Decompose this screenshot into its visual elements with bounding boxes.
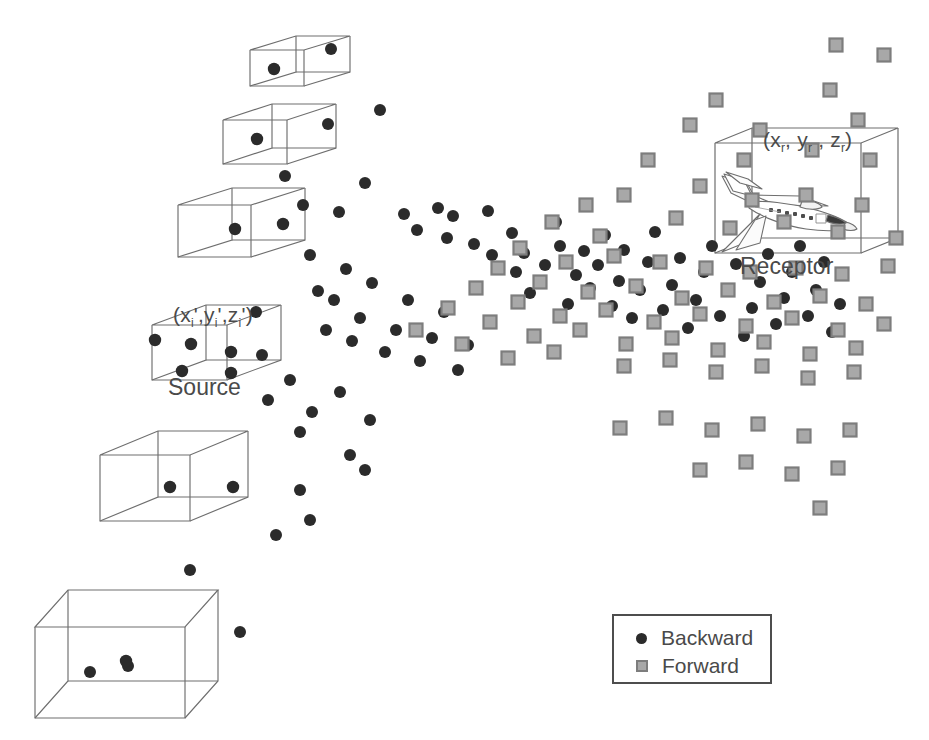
forward-particle xyxy=(580,199,593,212)
forward-particle xyxy=(824,84,837,97)
forward-particle xyxy=(860,298,873,311)
forward-particle xyxy=(832,226,845,239)
forward-particle xyxy=(758,336,771,349)
backward-particle xyxy=(294,426,306,438)
backward-particle xyxy=(325,43,337,55)
forward-particle xyxy=(850,342,863,355)
backward-particle xyxy=(592,259,604,271)
forward-particle xyxy=(620,338,633,351)
legend-label-backward: Backward xyxy=(661,626,753,650)
backward-particle xyxy=(834,298,846,310)
backward-particle xyxy=(746,302,758,314)
forward-particle xyxy=(890,232,903,245)
backward-particle xyxy=(452,364,464,376)
source-title-label: Source xyxy=(168,374,241,401)
box-particle xyxy=(164,481,176,493)
backward-particle xyxy=(333,206,345,218)
forward-particle xyxy=(442,302,455,315)
backward-particle xyxy=(506,227,518,239)
diagram-canvas: (xi',yi',zi') Source (xr, yr , zr) Recep… xyxy=(0,0,929,740)
forward-particle xyxy=(642,154,655,167)
legend-label-forward: Forward xyxy=(662,654,739,678)
forward-particle xyxy=(470,282,483,295)
source-box-1 xyxy=(250,36,350,86)
backward-particle xyxy=(402,294,414,306)
forward-marker-icon xyxy=(636,660,648,672)
forward-particle xyxy=(852,114,865,127)
backward-particle xyxy=(304,514,316,526)
source-box-5 xyxy=(100,431,248,521)
backward-particle xyxy=(714,310,726,322)
backward-particle xyxy=(426,332,438,344)
backward-particle xyxy=(626,312,638,324)
forward-particle xyxy=(684,119,697,132)
forward-particle xyxy=(800,189,813,202)
forward-particle xyxy=(864,154,877,167)
forward-particle xyxy=(654,256,667,269)
forward-particle xyxy=(712,344,725,357)
backward-particle xyxy=(304,249,316,261)
backward-particle xyxy=(578,245,590,257)
forward-particle xyxy=(670,212,683,225)
backward-particle xyxy=(374,104,386,116)
box-particle xyxy=(268,63,280,75)
legend: Backward Forward xyxy=(612,614,772,684)
forward-particle xyxy=(534,276,547,289)
backward-particle xyxy=(690,294,702,306)
forward-particle xyxy=(574,324,587,337)
forward-particle xyxy=(768,296,781,309)
backward-particle xyxy=(794,240,806,252)
box-particle xyxy=(149,334,161,346)
forward-particle xyxy=(608,250,621,263)
backward-particle xyxy=(346,335,358,347)
box-particle xyxy=(277,218,289,230)
source-coordinates-label: (xi',yi',zi') xyxy=(173,303,253,330)
forward-particle xyxy=(618,360,631,373)
backward-particle xyxy=(340,263,352,275)
forward-particle xyxy=(492,262,505,275)
backward-particle xyxy=(554,240,566,252)
backward-particle xyxy=(256,349,268,361)
backward-particle xyxy=(398,208,410,220)
forward-particle xyxy=(546,216,559,229)
forward-particle xyxy=(614,422,627,435)
aircraft-illustration xyxy=(722,172,857,252)
forward-particle xyxy=(694,464,707,477)
backward-particle xyxy=(379,346,391,358)
backward-particle xyxy=(359,177,371,189)
box-particle xyxy=(229,223,241,235)
forward-particle xyxy=(878,49,891,62)
backward-particle xyxy=(447,210,459,222)
forward-particle xyxy=(514,242,527,255)
forward-particle xyxy=(740,456,753,469)
backward-particle xyxy=(344,449,356,461)
source-box-6 xyxy=(35,590,218,718)
forward-particle xyxy=(814,290,827,303)
backward-marker-icon xyxy=(636,633,647,644)
receptor-coordinates-label: (xr, yr , zr) xyxy=(763,128,852,155)
box-particle xyxy=(227,481,239,493)
backward-particle xyxy=(414,355,426,367)
forward-particle xyxy=(856,199,869,212)
backward-particle xyxy=(262,394,274,406)
backward-particle xyxy=(613,275,625,287)
backward-particle xyxy=(328,294,340,306)
forward-particle xyxy=(548,346,561,359)
backward-particle xyxy=(657,304,669,316)
forward-particle xyxy=(694,308,707,321)
forward-particle xyxy=(666,332,679,345)
forward-particle xyxy=(660,412,673,425)
backward-particle xyxy=(642,256,654,268)
forward-particle xyxy=(664,354,677,367)
forward-particle xyxy=(706,424,719,437)
forward-particle xyxy=(836,268,849,281)
diagram-svg xyxy=(0,0,929,740)
forward-particle xyxy=(710,94,723,107)
forward-particle xyxy=(878,318,891,331)
backward-particle xyxy=(284,374,296,386)
box-center-particles xyxy=(120,63,289,667)
backward-particle xyxy=(770,318,782,330)
forward-particle xyxy=(600,304,613,317)
forward-particle xyxy=(594,230,607,243)
forward-particle xyxy=(738,154,751,167)
